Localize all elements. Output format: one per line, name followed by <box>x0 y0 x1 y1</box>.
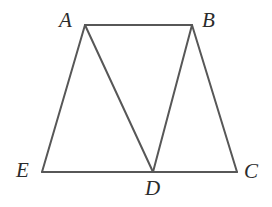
figure-canvas <box>0 0 272 207</box>
segment-BD <box>153 25 192 172</box>
vertex-label-E: E <box>16 160 29 181</box>
geometry-figure: A B C D E <box>0 0 272 207</box>
vertex-label-C: C <box>244 161 258 182</box>
segment-BC <box>192 25 237 172</box>
vertex-label-D: D <box>145 178 160 199</box>
segment-AD <box>85 25 153 172</box>
vertex-label-A: A <box>59 10 72 31</box>
segment-AE <box>42 25 85 172</box>
vertex-label-B: B <box>202 10 215 31</box>
